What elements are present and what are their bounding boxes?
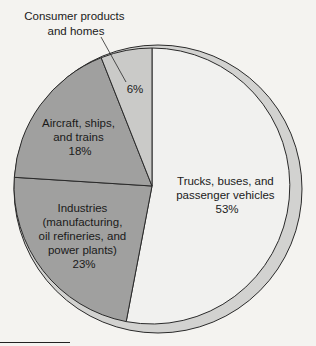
consumer-label: Consumer products and homes bbox=[24, 10, 128, 37]
footnote-rule bbox=[0, 342, 70, 343]
pie-chart: Consumer products and homes 6% Aircraft,… bbox=[0, 0, 316, 346]
consumer-pct: 6% bbox=[127, 83, 144, 95]
